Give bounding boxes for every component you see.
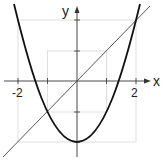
function-graph: y x -2 2: [0, 0, 162, 160]
x-axis-arrow-icon: [144, 79, 151, 84]
y-axis-arrow-icon: [75, 6, 80, 13]
x-tick-label-neg2: -2: [12, 86, 23, 100]
graph-canvas: y x -2 2: [0, 0, 162, 160]
line-y-equals-x: [3, 6, 150, 157]
x-tick-label-2: 2: [131, 86, 138, 100]
y-axis-label: y: [62, 3, 69, 19]
x-axis-label: x: [153, 73, 160, 89]
